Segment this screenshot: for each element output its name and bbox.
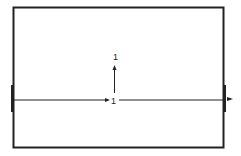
outer-frame	[14, 8, 224, 148]
diagram-canvas: 1 1	[0, 0, 241, 156]
left-bar	[11, 85, 14, 112]
label-horizontal-mid: 1	[111, 96, 116, 106]
arrow-head-right-icon	[227, 97, 233, 101]
arrow-head-mid-icon	[105, 98, 110, 102]
arrow-head-up-icon	[113, 65, 117, 70]
right-bar	[223, 85, 226, 112]
label-vertical-top: 1	[113, 52, 118, 62]
